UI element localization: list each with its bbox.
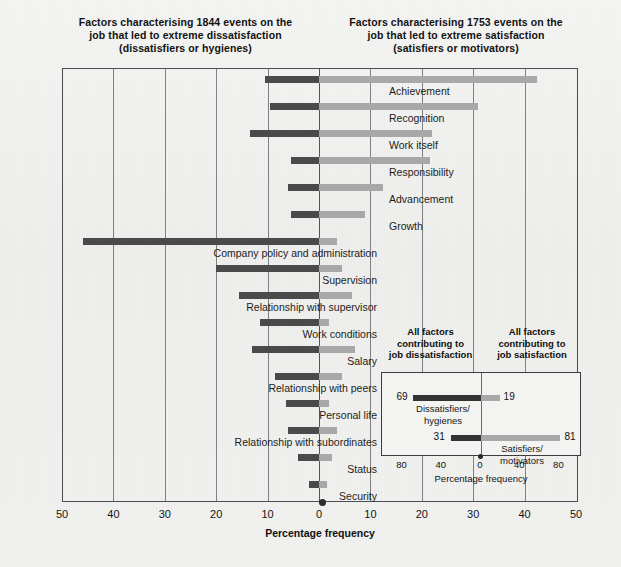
category-label: Achievement	[389, 84, 450, 98]
inset-heading-right-line-2: contributing to	[498, 338, 565, 349]
satisfaction-bar	[319, 346, 355, 353]
chart-row: Advancement	[63, 184, 577, 211]
dissatisfaction-bar	[252, 346, 319, 353]
left-title-line-1: Factors characterising 1844 events on th…	[79, 16, 293, 28]
satisfaction-bar	[319, 211, 365, 218]
satisfaction-bar	[319, 265, 342, 272]
chart-row: Company policy and administration	[63, 238, 577, 265]
inset-x-tick-label: 80	[391, 459, 413, 470]
inset-satisfaction-bar	[481, 395, 500, 401]
category-label: Work conditions	[302, 327, 381, 341]
x-axis-title: Percentage frequency	[62, 527, 578, 539]
dissatisfaction-bar	[83, 238, 319, 245]
inset-plot-area: 6919Dissatisfiers/hygienes3181Satisfiers…	[381, 372, 581, 456]
dissatisfaction-bar	[291, 157, 319, 164]
dissatisfaction-bar	[298, 454, 319, 461]
inset-heading-left: All factors contributing to job dissatis…	[381, 326, 480, 361]
inset-x-tick-label: 80	[547, 459, 569, 470]
chart-row: Work itself	[63, 130, 577, 157]
inset-heading-right-line-1: All factors	[509, 326, 555, 337]
category-label: Salary	[347, 354, 381, 368]
inset-heading-right-line-3: job satisfaction	[497, 349, 567, 360]
dissatisfaction-bar	[260, 319, 319, 326]
chart-row: Recognition	[63, 103, 577, 130]
inset-dissatisfaction-bar	[413, 395, 481, 401]
category-label: Responsibility	[389, 165, 454, 179]
chart-row: Achievement	[63, 76, 577, 103]
inset-heading-left-line-3: job dissatisfaction	[389, 349, 472, 360]
dissatisfaction-bar	[286, 400, 319, 407]
chart-row: Growth	[63, 211, 577, 238]
x-tick-label: 0	[304, 508, 334, 520]
satisfaction-bar	[319, 373, 342, 380]
dissatisfaction-bar	[275, 373, 319, 380]
category-label: Relationship with supervisor	[246, 300, 381, 314]
satisfaction-bar	[319, 130, 432, 137]
inset-x-axis-title: Percentage frequency	[381, 473, 581, 484]
dissatisfaction-bar	[291, 211, 319, 218]
inset-left-value: 31	[434, 431, 445, 442]
category-label: Recognition	[389, 111, 444, 125]
left-column-title: Factors characterising 1844 events on th…	[58, 16, 313, 55]
x-tick-label: 40	[510, 508, 540, 520]
zero-axis-marker	[319, 499, 326, 506]
chart-row: Responsibility	[63, 157, 577, 184]
left-title-line-3: (dissatisfiers or hygienes)	[119, 42, 252, 54]
inset-x-tick-label: 0	[469, 459, 491, 470]
dissatisfaction-bar	[265, 76, 319, 83]
x-tick-label: 10	[355, 508, 385, 520]
category-label: Work itself	[389, 138, 438, 152]
inset-satisfaction-bar	[481, 435, 560, 441]
satisfaction-bar	[319, 319, 329, 326]
satisfaction-bar	[319, 103, 478, 110]
inset-right-value: 81	[564, 431, 575, 442]
category-label: Status	[347, 462, 381, 476]
x-tick-label: 50	[47, 508, 77, 520]
inset-right-value: 19	[504, 391, 515, 402]
x-tick-label: 20	[407, 508, 437, 520]
right-column-title: Factors characterising 1753 events on th…	[325, 16, 587, 55]
right-title-line-2: job that led to extreme satisfaction	[368, 29, 545, 41]
x-tick-label: 10	[253, 508, 283, 520]
satisfaction-bar	[319, 76, 537, 83]
x-tick-label: 20	[201, 508, 231, 520]
chart-row: Relationship with supervisor	[63, 292, 577, 319]
category-label: Advancement	[389, 192, 453, 206]
dissatisfaction-bar	[288, 427, 319, 434]
category-label: Supervision	[322, 273, 381, 287]
inset-heading-left-line-2: contributing to	[397, 338, 464, 349]
inset-series-label-line-1: Satisfiers/	[501, 443, 543, 454]
inset-x-tick-label: 40	[508, 459, 530, 470]
category-label: Company policy and administration	[214, 246, 381, 260]
satisfaction-bar	[319, 400, 329, 407]
summary-inset: All factors contributing to job dissatis…	[381, 326, 582, 489]
inset-heading-left-line-1: All factors	[407, 326, 453, 337]
x-tick-label: 50	[561, 508, 591, 520]
satisfaction-bar	[319, 454, 332, 461]
satisfaction-bar	[319, 292, 352, 299]
category-label: Security	[339, 489, 381, 503]
dissatisfaction-bar	[250, 130, 319, 137]
chart-row: Supervision	[63, 265, 577, 292]
category-label: Growth	[389, 219, 423, 233]
x-tick-label: 30	[458, 508, 488, 520]
category-label: Relationship with peers	[268, 381, 381, 395]
herzberg-two-factor-figure: Factors characterising 1844 events on th…	[0, 0, 621, 567]
inset-series-label: Dissatisfiers/hygienes	[404, 403, 482, 426]
right-title-line-3: (satisfiers or motivators)	[393, 42, 519, 54]
inset-left-value: 69	[396, 391, 407, 402]
inset-heading-right: All factors contributing to job satisfac…	[482, 326, 582, 361]
x-tick-label: 30	[150, 508, 180, 520]
dissatisfaction-bar	[309, 481, 319, 488]
dissatisfaction-bar	[239, 292, 319, 299]
dissatisfaction-bar	[270, 103, 319, 110]
inset-series-label-line-1: Dissatisfiers/	[416, 403, 470, 414]
category-label: Personal life	[319, 408, 381, 422]
x-tick-label: 40	[98, 508, 128, 520]
dissatisfaction-bar	[216, 265, 319, 272]
satisfaction-bar	[319, 481, 327, 488]
satisfaction-bar	[319, 157, 430, 164]
satisfaction-bar	[319, 238, 337, 245]
dissatisfaction-bar	[288, 184, 319, 191]
category-label: Relationship with subordinates	[235, 435, 381, 449]
